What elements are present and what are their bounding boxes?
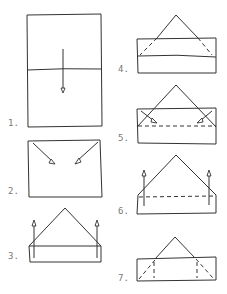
arrow-up-icon: [207, 170, 211, 176]
arrow-fold-left-icon: [151, 118, 157, 123]
arrow-fold-right-icon: [75, 158, 81, 164]
step-1-figure: [27, 14, 102, 127]
step-label: 5.: [118, 134, 129, 143]
step-7-figure: [137, 237, 216, 281]
arrow-fold-right-icon: [197, 118, 203, 123]
folding-diagram: [0, 0, 227, 294]
step-5-figure: [137, 85, 216, 144]
arrow-up-icon: [95, 220, 99, 226]
step-label: 4.: [118, 65, 129, 74]
step-6-figure: [137, 155, 216, 214]
step-label: 7.: [118, 274, 129, 283]
step-3-figure: [29, 208, 101, 262]
step-label: 3.: [8, 252, 19, 261]
arrow-fold-left-icon: [49, 159, 55, 164]
step-2-figure: [28, 140, 102, 197]
arrow-down-icon: [61, 88, 65, 93]
step-4-figure: [137, 15, 216, 73]
step-label: 6.: [118, 207, 129, 216]
step-label: 1.: [8, 119, 19, 128]
arrow-up-icon: [32, 220, 36, 226]
step-label: 2.: [8, 187, 19, 196]
arrow-up-icon: [142, 170, 146, 176]
